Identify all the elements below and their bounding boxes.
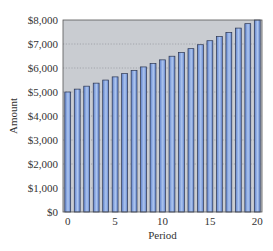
bar-period-3: [93, 83, 99, 212]
bar-period-9: [150, 63, 156, 212]
bar-period-2: [84, 86, 90, 212]
bar-period-14: [197, 45, 203, 212]
y-tick-label: $6,000: [28, 62, 59, 74]
y-axis-label: Amount: [7, 98, 19, 134]
bar-period-18: [235, 28, 241, 212]
bar-period-20: [254, 20, 260, 212]
x-tick-label: 5: [112, 215, 118, 227]
bar-period-17: [226, 32, 232, 212]
x-axis-label: Period: [148, 229, 177, 241]
x-tick-label: 0: [65, 215, 71, 227]
x-tick-label: 10: [157, 215, 169, 227]
bar-period-6: [122, 74, 128, 212]
bar-period-16: [216, 37, 222, 212]
bar-period-15: [207, 41, 213, 212]
bar-period-7: [131, 70, 137, 212]
y-tick-label: $3,000: [28, 134, 59, 146]
x-tick-label: 20: [252, 215, 264, 227]
x-tick-label: 15: [204, 215, 216, 227]
y-tick-label: $1,000: [28, 182, 59, 194]
y-tick-label: $8,000: [28, 14, 59, 26]
y-tick-label: $0: [47, 206, 59, 218]
bar-period-8: [141, 67, 147, 212]
bar-period-11: [169, 56, 175, 212]
bar-period-13: [188, 49, 194, 212]
bar-chart: $0$1,000$2,000$3,000$4,000$5,000$6,000$7…: [0, 0, 273, 251]
bar-period-5: [112, 77, 118, 212]
x-axis-ticks: 05101520: [65, 215, 263, 227]
bar-period-1: [74, 89, 80, 212]
bar-period-10: [160, 60, 166, 212]
y-tick-label: $5,000: [28, 86, 59, 98]
bar-period-19: [245, 24, 251, 212]
y-tick-label: $2,000: [28, 158, 59, 170]
y-axis-ticks: $0$1,000$2,000$3,000$4,000$5,000$6,000$7…: [28, 14, 59, 218]
bar-period-0: [65, 92, 71, 212]
y-tick-label: $7,000: [28, 38, 59, 50]
bar-period-12: [179, 52, 185, 212]
bar-period-4: [103, 80, 109, 212]
y-tick-label: $4,000: [28, 110, 59, 122]
